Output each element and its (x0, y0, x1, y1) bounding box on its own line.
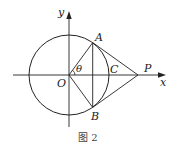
y-axis-label: y (57, 6, 65, 19)
point-c-label: C (110, 63, 119, 76)
tangent-pb (93, 75, 138, 107)
point-p-label: P (143, 62, 152, 75)
y-axis-arrow-icon (66, 11, 71, 19)
segment-ob (69, 75, 93, 107)
angle-theta-label: θ (76, 63, 82, 74)
origin-label: O (57, 77, 66, 90)
geometry-figure: y x O A B C P θ 图 2 (0, 0, 176, 148)
figure-caption: 图 2 (78, 132, 98, 143)
angle-theta-arc (73, 70, 76, 75)
point-b-label: B (90, 110, 99, 123)
point-a-label: A (94, 31, 103, 44)
x-axis-label: x (160, 76, 167, 89)
